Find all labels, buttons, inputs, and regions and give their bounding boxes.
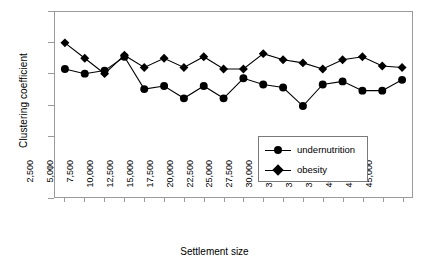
legend-item-undernutrition: undernutrition [265,143,355,157]
data-point [81,70,89,78]
x-axis-tick-mark [263,198,264,202]
x-axis-tick-mark [403,198,404,202]
series-undernutrition [61,53,406,110]
data-point [179,63,188,72]
series-obesity [60,38,406,78]
x-axis-tick-mark [363,198,364,202]
data-point [200,82,208,90]
x-axis-tick-mark [124,198,125,202]
legend-label: obesity [297,165,327,175]
x-axis-tick-mark [84,198,85,202]
x-axis-tick-mark [243,198,244,202]
data-point [239,74,247,82]
x-axis-tick-label: 27,500 [225,160,234,202]
legend-label: undernutrition [297,145,355,155]
chart-legend: undernutrition obesity [258,136,368,182]
x-axis-tick-label: 30,000 [245,160,254,202]
x-axis-tick-mark [204,198,205,202]
data-point [338,55,347,64]
data-point [61,65,69,73]
data-point [219,65,228,74]
x-axis-tick-label: 25,000 [205,160,214,202]
x-axis-tick-label: 20,000 [166,160,175,202]
data-point [299,102,307,110]
x-axis-tick-mark [144,198,145,202]
series-line [65,43,402,74]
chart-figure: Clustering coefficient 00.10.20.30.40.50… [0,0,429,263]
data-point [160,54,169,63]
data-point [339,77,347,85]
x-axis-tick-mark [64,198,65,202]
x-axis-tick-mark [383,198,384,202]
x-axis-tick-label: 15,000 [126,160,135,202]
data-point [378,62,387,71]
data-point [358,52,367,61]
legend-marker-diamond-icon [265,164,291,176]
x-axis-tick-mark [184,198,185,202]
x-axis-tick-mark [323,198,324,202]
x-axis-tick-label: 12,500 [106,160,115,202]
data-point [180,94,188,102]
data-point [318,65,327,74]
data-point [199,52,208,61]
x-axis-title: Settlement size [0,246,429,257]
x-axis-tick-label: 2,500 [26,160,35,202]
data-point [220,94,228,102]
data-point [259,81,267,89]
x-axis-tick-label: 17,500 [146,160,155,202]
x-axis-tick-label: 7,500 [66,160,75,202]
data-point [398,76,406,84]
data-point [319,81,327,89]
legend-marker-circle-icon [265,144,291,156]
x-axis-tick-label: 22,500 [186,160,195,202]
x-axis-tick-mark [283,198,284,202]
x-axis-tick-mark [104,198,105,202]
data-point [398,63,407,72]
data-point [140,85,148,93]
y-axis-title: Clustering coefficient [18,31,29,171]
x-axis-tick-mark [343,198,344,202]
data-point [279,55,288,64]
data-point [298,58,307,67]
data-point [358,87,366,95]
data-point [140,63,149,72]
data-point [378,87,386,95]
legend-item-obesity: obesity [265,163,327,177]
x-axis-tick-mark [224,198,225,202]
data-point [279,84,287,92]
x-axis-tick-label: 5,000 [46,160,55,202]
data-point [160,82,168,90]
x-axis-tick-mark [303,198,304,202]
x-axis-tick-mark [164,198,165,202]
x-axis-tick-label: 10,000 [86,160,95,202]
